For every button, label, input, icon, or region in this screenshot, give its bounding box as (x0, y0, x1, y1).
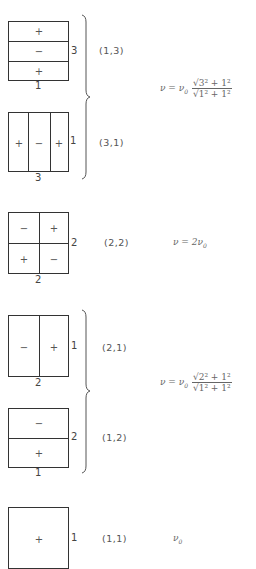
sign: + (15, 138, 23, 149)
denominator: √1² + 1² (193, 89, 231, 99)
fraction: √2² + 1² √1² + 1² (192, 372, 232, 393)
frequency-formula: ν = 2ν0 (173, 237, 207, 249)
mode-1-1-box: + (8, 507, 69, 569)
bottom-label: 1 (35, 467, 41, 478)
side-label: 1 (71, 532, 77, 543)
divider (39, 213, 40, 273)
subscript: 0 (184, 88, 188, 95)
divider (50, 113, 51, 171)
bottom-label: 2 (35, 274, 41, 285)
mode-label: (1,3) (99, 45, 124, 56)
mode-label: (1,2) (102, 432, 127, 443)
sign: + (50, 223, 58, 234)
mode-1-2-box: − + (8, 408, 69, 468)
mode-label: (1,1) (102, 533, 127, 544)
numerator: √3² + 1² (192, 78, 232, 89)
side-label: 2 (71, 431, 77, 442)
sign: + (55, 138, 63, 149)
sign: + (35, 534, 43, 545)
sign: − (35, 46, 43, 57)
formula-lhs: ν = ν (160, 83, 184, 93)
side-label: 3 (71, 45, 77, 56)
side-label: 1 (71, 340, 77, 351)
bottom-label: 2 (35, 377, 41, 388)
subscript: 0 (203, 242, 207, 249)
frequency-formula: ν = ν0 √3² + 1² √1² + 1² (160, 78, 232, 99)
sign: + (50, 342, 58, 353)
divider (28, 113, 29, 171)
formula-text: ν = 2ν (173, 237, 203, 247)
right-brace-icon (80, 14, 94, 180)
sign: − (35, 138, 43, 149)
subscript: 0 (178, 538, 182, 545)
sign: + (35, 66, 43, 77)
numerator: √2² + 1² (192, 372, 232, 383)
sign: − (50, 254, 58, 265)
side-label: 2 (71, 237, 77, 248)
divider (39, 316, 40, 376)
frequency-formula: ν0 (173, 533, 182, 545)
right-brace-icon (80, 309, 94, 474)
mode-2-2-box: − + + − (8, 212, 69, 274)
formula-lhs: ν = ν (160, 377, 184, 387)
sign: + (35, 448, 43, 459)
subscript: 0 (184, 382, 188, 389)
divider (9, 61, 68, 62)
mode-2-1-box: − + (8, 315, 69, 377)
sign: + (35, 26, 43, 37)
sign: + (20, 254, 28, 265)
mode-3-1-box: + − + (8, 112, 69, 172)
mode-label: (2,2) (104, 237, 129, 248)
denominator: √1² + 1² (193, 383, 231, 393)
mode-label: (2,1) (102, 342, 127, 353)
divider (9, 41, 68, 42)
fraction: √3² + 1² √1² + 1² (192, 78, 232, 99)
frequency-formula: ν = ν0 √2² + 1² √1² + 1² (160, 372, 232, 393)
bottom-label: 1 (35, 80, 41, 91)
side-label: 1 (70, 135, 76, 146)
sign: − (35, 418, 43, 429)
mode-1-3-box: + − + (8, 21, 69, 81)
bottom-label: 3 (35, 172, 41, 183)
sign: − (20, 223, 28, 234)
mode-label: (3,1) (99, 137, 124, 148)
divider (9, 438, 68, 439)
sign: − (20, 342, 28, 353)
